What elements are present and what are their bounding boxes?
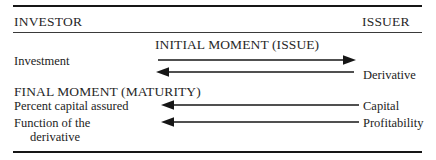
investor-issuer-flow-diagram: INVESTOR ISSUER INITIAL MOMENT (ISSUE) I… — [0, 0, 436, 160]
flow-label-function-of-the-derivative-cont: derivative — [30, 131, 80, 144]
arrow-right-icon — [158, 54, 356, 66]
flow-label-derivative: Derivative — [363, 69, 416, 82]
top-rule — [13, 5, 422, 7]
phase-title-final-moment: FINAL MOMENT (MATURITY) — [14, 85, 201, 99]
flow-label-percent-capital-assured: Percent capital assured — [14, 100, 129, 113]
phase-title-initial-moment: INITIAL MOMENT (ISSUE) — [155, 38, 319, 52]
flow-label-capital: Capital — [363, 100, 399, 113]
column-header-investor: INVESTOR — [14, 15, 82, 29]
flow-label-investment: Investment — [14, 55, 70, 68]
flow-label-profitability: Profitability — [363, 117, 423, 130]
column-header-issuer: ISSUER — [362, 15, 410, 29]
arrow-left-icon — [156, 66, 354, 78]
flow-label-function-of-the: Function of the — [14, 117, 90, 130]
header-separator-rule — [13, 32, 422, 33]
arrow-left-icon — [161, 116, 359, 128]
arrow-left-icon — [161, 99, 359, 111]
bottom-rule — [13, 151, 422, 153]
